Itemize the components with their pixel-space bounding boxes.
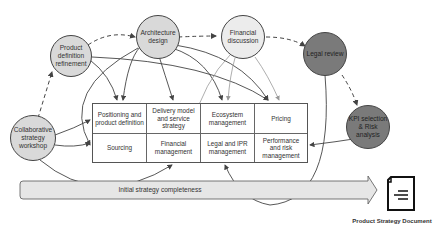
node-legal-review: Legal review	[303, 32, 347, 76]
node-kpi-selection: KPI selection & Risk analysis	[346, 105, 390, 149]
grid-cell-legal-ipr: Legal and IPR management	[201, 134, 255, 162]
grid-cell-positioning: Positioning and product definition	[93, 104, 147, 134]
document-label: Product Strategy Document	[352, 218, 432, 226]
grid-cell-sourcing: Sourcing	[93, 134, 147, 162]
node-product-definition: Product definition refinement	[50, 35, 92, 77]
node-architecture-design: Architecture design	[136, 15, 180, 59]
node-label: Product definition refinement	[51, 44, 91, 68]
node-collaborative-workshop: Collaborative strategy workshop	[10, 115, 56, 161]
grid-cell-delivery-model: Delivery model and service strategy	[147, 104, 201, 134]
node-label: Financial discussion	[222, 29, 264, 45]
grid-cell-performance-risk: Performance and risk management	[255, 134, 307, 162]
document-icon	[388, 177, 414, 210]
strategy-grid: Positioning and product definition Deliv…	[92, 103, 308, 163]
node-label: Architecture design	[137, 29, 179, 45]
grid-cell-ecosystem: Ecosystem management	[201, 104, 255, 134]
node-label: Legal review	[306, 50, 343, 58]
node-label: Collaborative strategy workshop	[11, 126, 55, 150]
node-label: KPI selection & Risk analysis	[347, 115, 389, 139]
grid-cell-financial-management: Financial management	[147, 134, 201, 162]
progress-arrow-label: Initial strategy completeness	[0, 186, 320, 193]
grid-cell-pricing: Pricing	[255, 104, 307, 134]
node-financial-discussion: Financial discussion	[221, 15, 265, 59]
